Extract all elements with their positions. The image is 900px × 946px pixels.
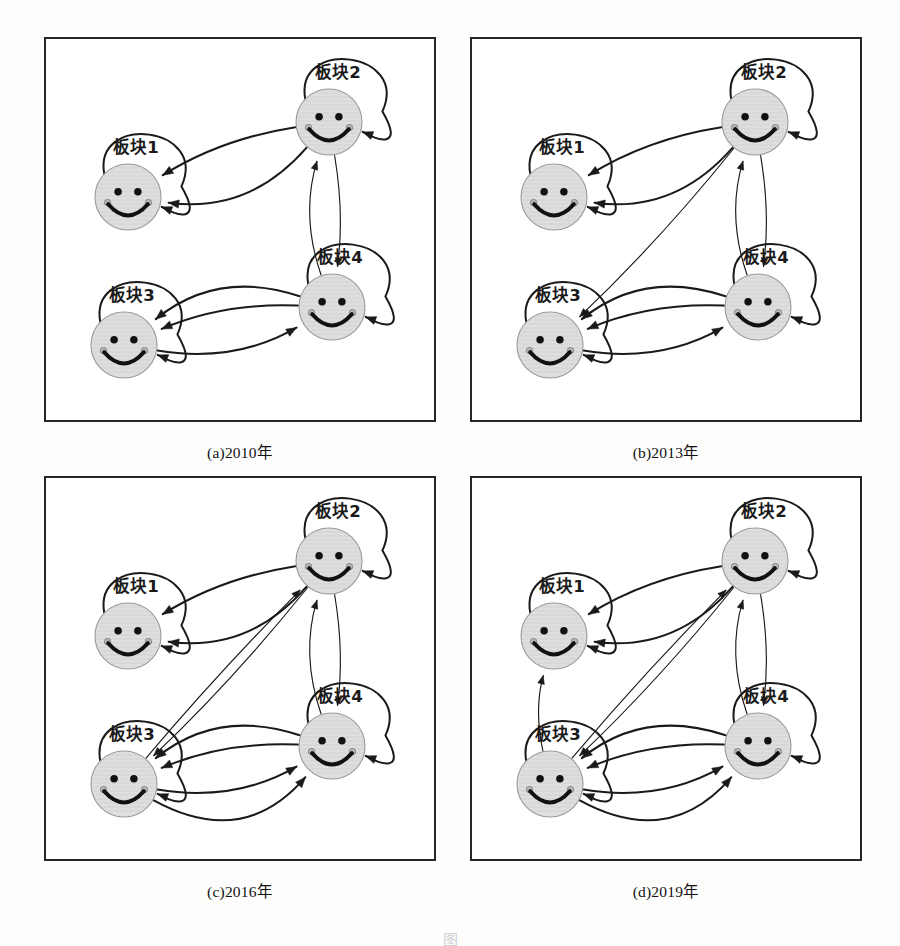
arrow-head [737,161,743,170]
network-panel-b: 板块1板块2板块3板块4(b)2013年 [470,37,862,456]
eye-right-icon [556,775,563,782]
arrow-head [156,310,167,320]
eye-right-icon [134,188,141,195]
arrow-head [163,166,174,175]
arrow-head [712,328,723,337]
graph-node-n1[interactable]: 板块1 [95,137,161,230]
arrow-head [162,207,173,215]
eye-right-icon [338,737,345,744]
node-label-n4: 板块4 [317,686,362,706]
node-label-n4: 板块4 [743,686,788,706]
node-label-n1: 板块1 [539,576,584,596]
network-panel-c: 板块1板块2板块3板块4(c)2016年 [44,476,436,895]
arrow-head [366,756,377,764]
eye-left-icon [114,188,121,195]
node-label-n3: 板块3 [109,285,154,305]
edge-curve [580,777,732,820]
graph-node-n3[interactable]: 板块3 [91,285,157,378]
eye-left-icon [110,336,117,343]
eye-right-icon [560,627,567,634]
arrow-head [737,600,743,609]
eye-right-icon [761,113,768,120]
eye-left-icon [741,552,748,559]
graph-node-n2[interactable]: 板块2 [296,62,362,155]
arrow-head [162,646,173,654]
graph-node-n4[interactable]: 板块4 [725,686,791,779]
node-label-n2: 板块2 [315,62,360,82]
panel-caption-a: (a)2010年 [44,440,436,462]
panel-graph-b: 板块1板块2板块3板块4 [470,37,862,422]
edge-n2-to-n1 [169,587,307,648]
graph-node-n1[interactable]: 板块1 [95,576,161,669]
node-label-n2: 板块2 [741,62,786,82]
graph-node-n4[interactable]: 板块4 [299,686,365,779]
arrow-head [311,161,317,170]
panel-caption-d: (d)2019年 [470,879,862,901]
eye-left-icon [744,298,751,305]
node-label-n2: 板块2 [741,501,786,521]
arrow-head [588,207,599,215]
arrow-head [286,767,297,776]
edge-curve [169,148,307,205]
eye-left-icon [318,737,325,744]
eye-left-icon [318,298,325,305]
eye-left-icon [540,627,547,634]
node-label-n4: 板块4 [317,247,362,267]
graph-node-n4[interactable]: 板块4 [725,247,791,340]
arrow-head [792,317,803,325]
arrow-head [584,355,595,363]
panel-graph-a: 板块1板块2板块3板块4 [44,37,436,422]
graph-node-n1[interactable]: 板块1 [521,576,587,669]
edge-n2-to-n1 [163,127,296,175]
node-label-n2: 板块2 [315,501,360,521]
arrow-head [588,321,599,329]
graph-node-n2[interactable]: 板块2 [722,62,788,155]
graph-node-n2[interactable]: 板块2 [722,501,788,594]
arrow-head [363,571,374,579]
graph-node-n3[interactable]: 板块3 [517,724,583,817]
edge-curve [589,127,722,175]
eye-left-icon [741,113,748,120]
edge-curve [589,566,722,614]
arrow-head [311,600,317,609]
eye-left-icon [536,775,543,782]
eye-left-icon [114,627,121,634]
network-panel-d: 板块1板块2板块3板块4(d)2019年 [470,476,862,895]
node-label-n3: 板块3 [535,724,580,744]
eye-left-icon [540,188,547,195]
network-panel-a: 板块1板块2板块3板块4(a)2010年 [44,37,436,456]
arrow-head [789,132,800,140]
node-label-n1: 板块1 [113,137,158,157]
edge-n2-to-n1 [169,148,307,209]
eye-right-icon [130,775,137,782]
eye-left-icon [110,775,117,782]
graph-node-n3[interactable]: 板块3 [517,285,583,378]
arrow-head [158,794,169,802]
figure-caption: 图 [0,928,900,946]
arrow-head [363,132,374,140]
graph-node-n1[interactable]: 板块1 [521,137,587,230]
arrow-head [163,605,174,614]
eye-right-icon [764,737,771,744]
eye-right-icon [761,552,768,559]
arrow-head [286,328,297,337]
eye-right-icon [556,336,563,343]
arrow-head [158,355,169,363]
eye-right-icon [335,552,342,559]
eye-right-icon [335,113,342,120]
graph-node-n2[interactable]: 板块2 [296,501,362,594]
eye-right-icon [764,298,771,305]
node-label-n3: 板块3 [109,724,154,744]
graph-node-n4[interactable]: 板块4 [299,247,365,340]
panel-graph-c: 板块1板块2板块3板块4 [44,476,436,861]
graph-node-n3[interactable]: 板块3 [91,724,157,817]
panel-caption-b: (b)2013年 [470,440,862,462]
node-label-n1: 板块1 [539,137,584,157]
eye-right-icon [560,188,567,195]
eye-left-icon [315,552,322,559]
edge-curve [154,777,306,820]
arrow-head [584,794,595,802]
edge-n3-to-n4 [154,777,306,820]
eye-right-icon [338,298,345,305]
edge-n3-to-n4 [580,777,732,820]
